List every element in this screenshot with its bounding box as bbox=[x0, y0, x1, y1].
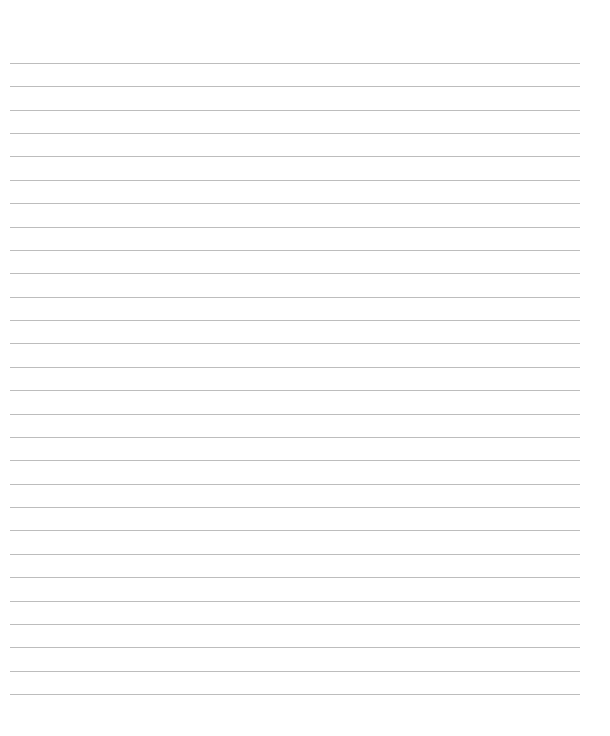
ruled-line bbox=[10, 694, 580, 695]
ruled-line bbox=[10, 203, 580, 204]
ruled-line bbox=[10, 647, 580, 648]
ruled-line bbox=[10, 507, 580, 508]
ruled-line bbox=[10, 530, 580, 531]
ruled-line bbox=[10, 554, 580, 555]
ruled-line bbox=[10, 414, 580, 415]
ruled-line bbox=[10, 110, 580, 111]
ruled-line bbox=[10, 437, 580, 438]
ruled-line bbox=[10, 671, 580, 672]
ruled-line bbox=[10, 250, 580, 251]
ruled-line bbox=[10, 297, 580, 298]
ruled-line bbox=[10, 367, 580, 368]
ruled-line bbox=[10, 484, 580, 485]
ruled-line bbox=[10, 320, 580, 321]
ruled-line bbox=[10, 156, 580, 157]
ruled-line bbox=[10, 273, 580, 274]
ruled-line bbox=[10, 390, 580, 391]
ruled-line bbox=[10, 460, 580, 461]
ruled-line bbox=[10, 624, 580, 625]
lined-paper-sheet bbox=[0, 0, 610, 736]
ruled-line bbox=[10, 227, 580, 228]
ruled-line bbox=[10, 86, 580, 87]
ruled-line bbox=[10, 343, 580, 344]
ruled-line bbox=[10, 133, 580, 134]
ruled-line bbox=[10, 63, 580, 64]
ruled-line bbox=[10, 601, 580, 602]
ruled-line bbox=[10, 180, 580, 181]
ruled-line bbox=[10, 577, 580, 578]
